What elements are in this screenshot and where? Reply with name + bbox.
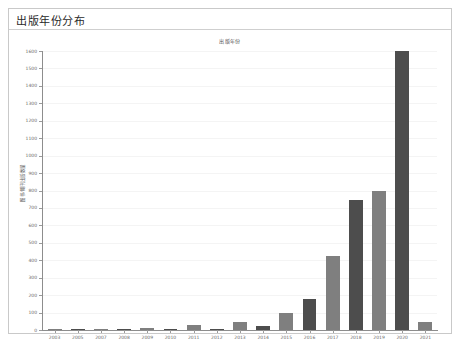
x-tick-label: 2018: [344, 335, 367, 340]
y-axis-label: 图书/期刊出版数量: [19, 153, 25, 213]
y-tick-label: 900: [11, 171, 37, 176]
x-tick-label: 2008: [113, 335, 136, 340]
bar-2016[interactable]: [303, 299, 317, 330]
x-tick-mark: [78, 330, 79, 333]
x-tick-mark: [402, 330, 403, 333]
x-tick-mark: [194, 330, 195, 333]
y-tick-label: 0: [11, 328, 37, 333]
x-tick-mark: [217, 330, 218, 333]
x-tick-mark: [286, 330, 287, 333]
x-tick-label: 2012: [205, 335, 228, 340]
x-tick-label: 2011: [182, 335, 205, 340]
bar-2019[interactable]: [372, 191, 386, 331]
y-tick-label: 600: [11, 223, 37, 228]
x-tick-mark: [240, 330, 241, 333]
x-tick-mark: [263, 330, 264, 333]
bars-layer[interactable]: [43, 51, 437, 330]
y-tick-label: 1100: [11, 136, 37, 141]
x-tick-label: 2013: [228, 335, 251, 340]
x-tick-mark: [356, 330, 357, 333]
bar-2020[interactable]: [395, 51, 409, 330]
x-tick-label: 2010: [159, 335, 182, 340]
screenshot-root: 出版年份分布 出版年份 图书/期刊出版数量 010020030040050060…: [0, 0, 460, 342]
chart-canvas: 图书/期刊出版数量 010020030040050060070080090010…: [9, 30, 451, 333]
y-tick-label: 400: [11, 258, 37, 263]
bar-2015[interactable]: [279, 313, 293, 330]
chart-region: 出版年份 图书/期刊出版数量 0100200300400500600700800…: [9, 30, 451, 333]
x-tick-label: 2009: [136, 335, 159, 340]
x-tick-label: 2003: [43, 335, 66, 340]
y-tick-label: 500: [11, 240, 37, 245]
x-tick-label: 2014: [252, 335, 275, 340]
bar-2017[interactable]: [326, 256, 340, 330]
publication-year-panel: 出版年份分布 出版年份 图书/期刊出版数量 010020030040050060…: [8, 8, 452, 334]
x-tick-label: 2017: [321, 335, 344, 340]
x-tick-label: 2019: [367, 335, 390, 340]
y-tick-label: 1200: [11, 118, 37, 123]
bar-2021[interactable]: [418, 322, 432, 330]
y-tick-label: 100: [11, 310, 37, 315]
panel-header: 出版年份分布: [9, 9, 451, 30]
x-tick-mark: [425, 330, 426, 333]
y-tick-label: 200: [11, 293, 37, 298]
bar-2013[interactable]: [233, 322, 247, 330]
x-tick-label: 2020: [391, 335, 414, 340]
x-tick-label: 2021: [414, 335, 437, 340]
x-tick-mark: [170, 330, 171, 333]
x-tick-label: 2016: [298, 335, 321, 340]
y-tick-label: 1400: [11, 83, 37, 88]
y-tick-label: 1600: [11, 49, 37, 54]
x-tick-mark: [124, 330, 125, 333]
x-tick-label: 2015: [275, 335, 298, 340]
x-tick-mark: [379, 330, 380, 333]
x-tick-label: 2007: [89, 335, 112, 340]
y-tick-label: 300: [11, 275, 37, 280]
x-tick-mark: [333, 330, 334, 333]
x-tick-mark: [101, 330, 102, 333]
x-tick-mark: [310, 330, 311, 333]
x-tick-mark: [55, 330, 56, 333]
x-tick-label: 2005: [66, 335, 89, 340]
y-tick-label: 800: [11, 188, 37, 193]
y-tick-label: 700: [11, 205, 37, 210]
y-tick-label: 1500: [11, 66, 37, 71]
y-tick-label: 1000: [11, 153, 37, 158]
panel-title: 出版年份分布: [16, 12, 85, 28]
bar-2018[interactable]: [349, 200, 363, 330]
y-tick-label: 1300: [11, 101, 37, 106]
x-tick-mark: [147, 330, 148, 333]
